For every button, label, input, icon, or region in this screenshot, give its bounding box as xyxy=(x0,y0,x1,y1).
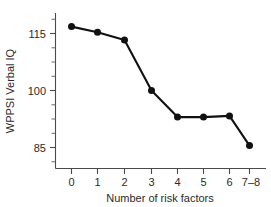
y-major-ticks xyxy=(50,34,56,148)
data-point xyxy=(174,114,181,121)
data-line xyxy=(72,27,250,146)
data-point xyxy=(200,114,207,121)
data-point xyxy=(226,112,233,119)
y-tick-label-100: 100 xyxy=(28,85,46,97)
line-chart: 115 100 85 0 1 2 3 4 5 6 7–8 Number of r… xyxy=(0,0,271,207)
y-tick-labels: 115 100 85 xyxy=(28,28,46,154)
x-tick-label-1: 1 xyxy=(94,176,100,188)
x-ticks xyxy=(72,169,250,175)
axis-group xyxy=(56,13,267,169)
chart-figure: 115 100 85 0 1 2 3 4 5 6 7–8 Number of r… xyxy=(0,0,271,207)
x-tick-label-2: 2 xyxy=(121,176,127,188)
data-point xyxy=(121,36,128,43)
x-tick-label-5: 5 xyxy=(200,176,206,188)
x-tick-label-7-8: 7–8 xyxy=(242,176,260,188)
x-tick-label-6: 6 xyxy=(226,176,232,188)
x-tick-label-0: 0 xyxy=(68,176,74,188)
data-point xyxy=(148,87,155,94)
x-tick-label-3: 3 xyxy=(148,176,154,188)
y-tick-label-115: 115 xyxy=(28,28,46,40)
data-point xyxy=(246,142,253,149)
x-axis-title: Number of risk factors xyxy=(106,192,214,204)
y-tick-label-85: 85 xyxy=(34,142,46,154)
data-point xyxy=(94,29,101,36)
data-point xyxy=(68,23,75,30)
x-tick-label-4: 4 xyxy=(174,176,180,188)
y-axis-title: WPPSI Verbal IQ xyxy=(4,48,16,133)
x-tick-labels: 0 1 2 3 4 5 6 7–8 xyxy=(68,176,260,188)
data-series-wppsi-verbal-iq xyxy=(68,23,253,149)
